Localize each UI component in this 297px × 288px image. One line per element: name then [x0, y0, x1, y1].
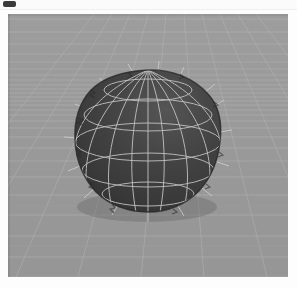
viewport-inner-shadow-top: [8, 14, 288, 16]
viewport-inner-shadow-left: [8, 14, 10, 277]
title-bar-divider: [0, 9, 297, 10]
viewport-canvas[interactable]: [8, 14, 288, 277]
viewport-3d[interactable]: [8, 14, 288, 277]
app-icon: [3, 1, 16, 7]
window-title-bar: [0, 0, 297, 10]
application-window: [0, 0, 297, 288]
